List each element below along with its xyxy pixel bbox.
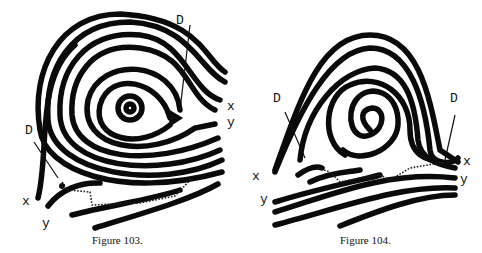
figure-104-ridges xyxy=(275,35,458,226)
fig103-label-x-left: x xyxy=(22,195,30,208)
fig103-label-y-left: y xyxy=(42,217,50,230)
fig104-label-y-right: y xyxy=(460,173,468,186)
figure-104-arrow-right xyxy=(445,115,455,160)
fig104-label-x-left: x xyxy=(252,170,260,183)
figure-104-caption: Figure 104. xyxy=(340,234,391,246)
fingerprint-diagrams xyxy=(0,0,482,253)
figure-103-ridges xyxy=(38,14,225,228)
fig104-label-y-left: y xyxy=(260,193,268,206)
fig103-label-y-right: y xyxy=(227,116,235,129)
fig104-label-d-left: D xyxy=(273,92,281,105)
fig103-label-d-top: D xyxy=(176,14,184,27)
figure-103-delta-dot xyxy=(59,183,65,189)
fig103-label-d-left: D xyxy=(25,124,33,137)
fig104-label-x-right: x xyxy=(463,155,471,168)
fig103-label-x-right: x xyxy=(227,100,235,113)
figure-103-caption: Figure 103. xyxy=(92,234,143,246)
fig104-label-d-right: D xyxy=(450,92,458,105)
